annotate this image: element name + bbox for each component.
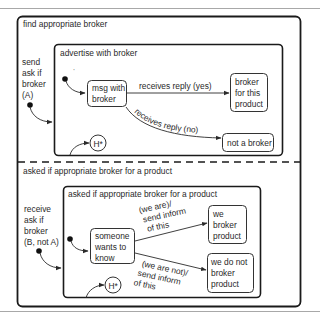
initial-transition-arrow: [30, 107, 52, 122]
bottom-inner-initial-arrow: [71, 241, 88, 251]
initial-pseudostate-icon: [27, 102, 33, 108]
svg-text:(A): (A): [22, 90, 33, 100]
bottom-history-state-icon: H*: [105, 277, 121, 293]
state-we-broker-product: we broker product: [209, 206, 247, 244]
state-someone-wants-to-know: someone wants to know: [91, 229, 135, 264]
history-entry-arrow: [70, 143, 89, 155]
trigger-send-ask-label: send ask if broker (A): [22, 57, 46, 100]
svg-text:we do not: we do not: [210, 257, 248, 267]
state-msg-with-broker: msg with broker: [88, 81, 127, 107]
inner-initial-arrow: [66, 81, 85, 93]
transition-we-are-label: (we are)/ send inform of this: [138, 196, 189, 235]
state-we-do-not-broker-product: we do not broker product: [208, 254, 254, 293]
svg-text:ask if: ask if: [24, 215, 44, 225]
history-state-icon: H*: [90, 135, 106, 151]
svg-text:(B, not A): (B, not A): [24, 237, 59, 247]
state-broker-for-this-product: broker for this product: [231, 74, 268, 112]
state-asked-label: asked if appropriate broker for a produc…: [68, 189, 218, 199]
state-not-a-broker: not a broker: [223, 134, 274, 152]
bottom-initial-pseudostate-icon: [36, 248, 42, 254]
state-advertise-label: advertise with broker: [60, 48, 137, 58]
svg-text:H*: H*: [94, 139, 104, 149]
svg-text:broker: broker: [213, 220, 237, 230]
bottom-history-entry-arrow: [86, 285, 104, 298]
bottom-initial-transition-arrow: [40, 253, 61, 268]
svg-text:for this: for this: [235, 88, 260, 98]
svg-text:broker: broker: [22, 79, 46, 89]
transition-yes-label: receives reply (yes): [139, 81, 212, 91]
svg-text:product: product: [235, 99, 264, 109]
svg-text:someone: someone: [95, 231, 130, 241]
inner-initial-pseudostate-icon: [62, 76, 68, 82]
svg-text:wants to: wants to: [94, 242, 127, 252]
svg-text:receive: receive: [24, 204, 51, 214]
trigger-receive-ask-label: receive ask if broker (B, not A): [24, 204, 59, 247]
transition-no-label: receives reply (no): [133, 106, 199, 135]
region-top-label: find appropriate broker: [23, 19, 107, 29]
svg-text:product: product: [211, 279, 240, 289]
stray-mark: ': [74, 68, 75, 74]
svg-text:msg with: msg with: [92, 83, 125, 93]
svg-text:broker: broker: [211, 268, 235, 278]
svg-text:product: product: [213, 231, 242, 241]
svg-text:broker: broker: [235, 77, 259, 87]
svg-text:not a broker: not a broker: [227, 138, 272, 148]
statechart-diagram: find appropriate broker send ask if brok…: [0, 0, 320, 321]
svg-text:broker: broker: [24, 226, 48, 236]
svg-text:know: know: [95, 253, 116, 263]
region-bottom-label: asked if appropriate broker for a produc…: [23, 166, 173, 176]
svg-text:ask if: ask if: [22, 68, 42, 78]
svg-text:broker: broker: [92, 94, 116, 104]
svg-text:we: we: [212, 209, 224, 219]
bottom-inner-initial-pseudostate-icon: [67, 236, 73, 242]
svg-text:send: send: [22, 57, 41, 67]
svg-text:H*: H*: [109, 281, 119, 291]
